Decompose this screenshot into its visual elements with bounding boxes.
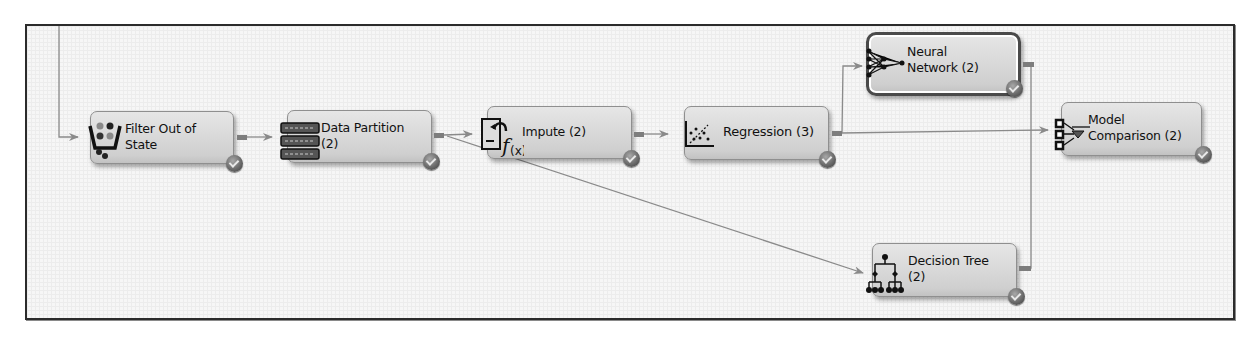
output-port[interactable] bbox=[634, 132, 644, 137]
status-completed-icon bbox=[1006, 80, 1023, 97]
node-model-comparison[interactable]: Model Comparison (2) bbox=[1061, 102, 1202, 156]
node-label: Decision Tree (2) bbox=[908, 253, 989, 285]
output-port[interactable] bbox=[434, 133, 444, 138]
status-completed-icon bbox=[423, 153, 440, 170]
svg-text:(x): (x) bbox=[510, 144, 524, 158]
status-completed-icon bbox=[1008, 288, 1025, 305]
node-decision-tree[interactable]: Decision Tree (2) bbox=[872, 243, 1017, 297]
node-filter-out-of-state[interactable]: Filter Out of State bbox=[90, 111, 234, 164]
output-port[interactable] bbox=[1023, 62, 1034, 67]
regression-scatter-icon bbox=[684, 119, 716, 153]
status-completed-icon bbox=[226, 155, 243, 172]
output-port[interactable] bbox=[237, 135, 247, 140]
output-port[interactable] bbox=[1019, 266, 1031, 271]
data-partition-icon bbox=[280, 122, 320, 166]
neural-network-icon bbox=[866, 47, 908, 83]
node-label: Regression (3) bbox=[723, 124, 814, 140]
decision-tree-icon bbox=[865, 252, 905, 300]
node-regression[interactable]: Regression (3) bbox=[684, 106, 829, 160]
status-completed-icon bbox=[819, 151, 836, 168]
status-completed-icon bbox=[623, 150, 640, 167]
node-neural-network[interactable]: Neural Network (2) bbox=[866, 32, 1021, 96]
status-completed-icon bbox=[1195, 146, 1212, 163]
filter-basket-icon bbox=[87, 114, 123, 164]
node-label: Neural Network (2) bbox=[907, 44, 979, 76]
diagram-canvas[interactable] bbox=[25, 24, 1235, 320]
impute-function-icon: f (x) bbox=[480, 115, 524, 163]
output-port[interactable] bbox=[832, 131, 842, 136]
node-label: Filter Out of State bbox=[125, 121, 196, 153]
node-data-partition[interactable]: Data Partition (2) bbox=[287, 110, 432, 163]
node-impute[interactable]: f (x) Impute (2) bbox=[487, 106, 632, 159]
node-label: Impute (2) bbox=[522, 124, 586, 140]
node-label: Model Comparison (2) bbox=[1088, 112, 1182, 144]
node-label: Data Partition (2) bbox=[321, 120, 404, 152]
